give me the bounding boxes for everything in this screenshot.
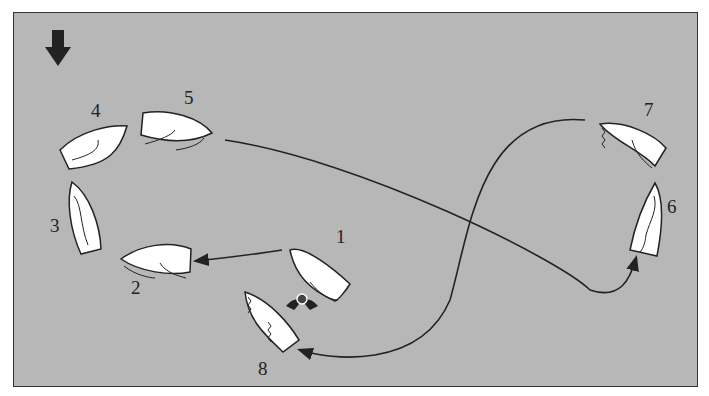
boat-label-6: 6 <box>667 196 677 217</box>
boat-1 <box>290 249 350 301</box>
boat-8 <box>245 292 299 352</box>
boat-label-5: 5 <box>184 87 194 108</box>
boat-label-2: 2 <box>131 277 141 298</box>
course-line-5-to-6 <box>225 140 636 293</box>
boat-2 <box>121 244 191 278</box>
boat-label-1: 1 <box>336 226 346 247</box>
boat-4 <box>60 126 127 169</box>
boat-7 <box>600 123 666 168</box>
boat-label-8: 8 <box>258 358 268 379</box>
boat-label-4: 4 <box>91 100 101 121</box>
wind-arrow-down-icon <box>45 30 71 66</box>
diagram-canvas: 1 2 3 4 5 6 7 8 <box>0 0 709 396</box>
boat-label-3: 3 <box>50 215 60 236</box>
boat-5 <box>141 112 212 150</box>
boat-label-7: 7 <box>644 99 654 120</box>
boat-6 <box>630 183 662 256</box>
boat-3 <box>69 182 101 254</box>
buoy-mark-icon <box>286 294 318 310</box>
course-line-1-to-2 <box>196 250 282 261</box>
